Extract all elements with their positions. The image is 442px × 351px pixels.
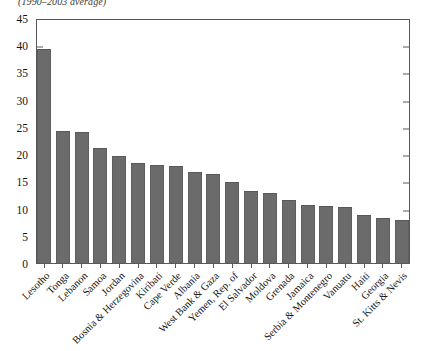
- x-axis-label-cell: Georgia: [376, 268, 390, 351]
- x-axis-label-cell: Kiribati: [150, 268, 164, 351]
- bar: [357, 215, 371, 263]
- bar: [338, 207, 352, 263]
- bar: [169, 166, 183, 263]
- y-axis-tick-label: 0: [22, 258, 28, 270]
- x-axis-labels: LesothoTongaLebanonSamoaJordanBosnia & H…: [37, 268, 409, 351]
- y-axis-tick-label: 40: [17, 40, 29, 52]
- bar: [319, 206, 333, 263]
- bar: [301, 205, 315, 263]
- bar: [37, 49, 51, 263]
- y-axis-tick-label: 35: [17, 67, 29, 79]
- bar: [263, 193, 277, 263]
- bar: [376, 218, 390, 263]
- bar: [150, 165, 164, 263]
- bar: [395, 220, 409, 263]
- bar: [56, 131, 70, 263]
- bar: [112, 156, 126, 263]
- x-axis-label-cell: El Salvador: [244, 268, 258, 351]
- y-axis-tick-label: 30: [17, 95, 29, 107]
- bar: [282, 200, 296, 263]
- y-axis-labels: 051015202530354045: [0, 19, 36, 264]
- y-axis-tick-label: 20: [17, 149, 29, 161]
- chart-caption: (1990–2003 average): [18, 0, 106, 7]
- y-axis-tick-label: 45: [17, 13, 29, 25]
- x-axis-label-cell: Yemen, Rep. of: [225, 268, 239, 351]
- x-axis-label-cell: St. Kitts & Nevis: [395, 268, 409, 351]
- bar: [244, 191, 258, 263]
- x-axis-label-cell: Vanuatu: [338, 268, 352, 351]
- x-axis-label-cell: Serbia & Montenegro: [319, 268, 333, 351]
- y-axis-tick-label: 15: [17, 176, 29, 188]
- bar: [225, 182, 239, 263]
- bar: [75, 132, 89, 263]
- y-axis-tick-label: 25: [17, 122, 29, 134]
- y-axis-tick-label: 10: [17, 204, 29, 216]
- bar: [188, 172, 202, 263]
- bar: [93, 148, 107, 263]
- bar-series: [37, 20, 409, 263]
- bar: [206, 174, 220, 263]
- y-axis-tick-label: 5: [22, 231, 28, 243]
- x-axis-label-cell: Bosnia & Herzegovina: [131, 268, 145, 351]
- x-axis-label-cell: West Bank & Gaza: [206, 268, 220, 351]
- bar: [131, 163, 145, 263]
- x-axis-label-cell: Lesotho: [37, 268, 51, 351]
- bar-chart-figure: (1990–2003 average) 051015202530354045 L…: [0, 0, 442, 351]
- x-axis-label-cell: Tonga: [56, 268, 70, 351]
- x-axis-label-cell: Jamaica: [301, 268, 315, 351]
- x-axis-label-cell: Jordan: [112, 268, 126, 351]
